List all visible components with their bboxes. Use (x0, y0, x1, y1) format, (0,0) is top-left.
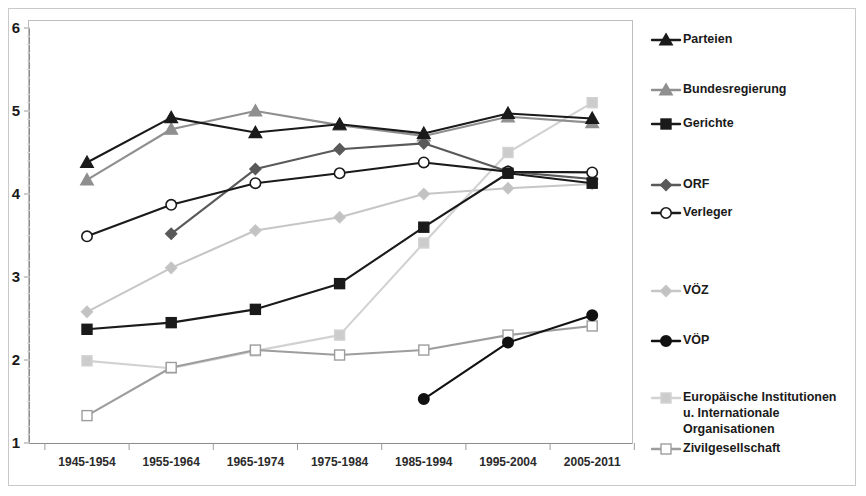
data-point-marker (81, 173, 94, 184)
line-chart-svg: 123456 1945-19541955-19641965-19741975-1… (0, 0, 866, 496)
data-point-marker (334, 144, 345, 155)
data-point-marker (419, 394, 429, 404)
y-axis-tick-label: 5 (12, 102, 20, 119)
data-point-marker (334, 212, 345, 223)
y-axis-tick-label: 1 (12, 434, 20, 451)
data-point-marker (166, 262, 177, 273)
legend-item-verleger[interactable]: Verleger (652, 205, 732, 219)
data-point-marker (82, 411, 92, 421)
data-point-marker (334, 168, 344, 178)
x-axis-tick-label: 2005-2011 (564, 455, 621, 469)
legend-item-gerichte[interactable]: Gerichte (652, 116, 734, 130)
data-point-marker (166, 318, 176, 328)
y-axis-tick-label: 4 (12, 185, 21, 202)
data-point-marker (503, 148, 513, 158)
legend-item-zivilgesellschaft[interactable]: Zivilgesellschaft (652, 441, 781, 455)
x-axis-tick-label: 1975-1984 (311, 455, 369, 469)
data-point-marker (418, 188, 429, 199)
data-point-marker (503, 168, 513, 178)
legend-item-v-p[interactable]: VÖP (652, 332, 709, 347)
data-point-marker (81, 156, 94, 167)
data-point-marker (419, 238, 429, 248)
data-point-marker (81, 306, 92, 317)
data-point-marker (587, 321, 597, 331)
legend-item-parteien[interactable]: Parteien (652, 32, 732, 46)
legend-label: Parteien (683, 32, 732, 46)
data-point-marker (335, 350, 345, 360)
data-point-marker (661, 119, 671, 129)
data-point-marker (660, 179, 671, 190)
data-point-marker (661, 393, 671, 403)
data-point-marker (335, 330, 345, 340)
legend-label: Europäische Institutionen (683, 390, 837, 404)
data-point-marker (250, 304, 260, 314)
series-v-z (81, 178, 597, 317)
legend-label: Verleger (683, 205, 732, 219)
legend-label: u. Internationale (683, 406, 780, 420)
legend-label: VÖP (683, 332, 709, 347)
data-point-marker (587, 178, 597, 188)
y-axis-tick-label: 2 (12, 351, 20, 368)
data-point-marker (419, 222, 429, 232)
legend-label: Bundesregierung (683, 82, 787, 96)
data-point-marker (419, 157, 429, 167)
data-point-marker (503, 337, 513, 347)
x-axis-tick-label: 1985-1994 (395, 455, 453, 469)
series-layer (81, 98, 599, 421)
data-point-marker (661, 444, 671, 454)
chart-legend: ParteienBundesregierungGerichteORFVerleg… (652, 32, 837, 455)
data-point-marker (502, 183, 513, 194)
data-point-marker (250, 345, 260, 355)
data-point-marker (335, 279, 345, 289)
legend-item-bundesregierung[interactable]: Bundesregierung (652, 82, 787, 96)
data-point-marker (82, 324, 92, 334)
x-axis-tick-label: 1955-1964 (143, 455, 201, 469)
y-axis: 123456 (12, 19, 30, 451)
legend-label: Zivilgesellschaft (683, 441, 781, 455)
data-point-marker (419, 345, 429, 355)
x-axis: 1945-19541955-19641965-19741975-19841985… (30, 443, 635, 469)
series-europ-ische-institutionen-u-internationale-organisationen (82, 98, 597, 374)
legend-label: ORF (683, 177, 710, 191)
legend-item-orf[interactable]: ORF (652, 177, 710, 191)
series-gerichte (82, 168, 597, 334)
x-axis-tick-label: 1945-1954 (58, 455, 116, 469)
chart-container: 123456 1945-19541955-19641965-19741975-1… (0, 0, 866, 496)
legend-label: Gerichte (683, 116, 734, 130)
x-axis-tick-label: 1965-1974 (227, 455, 285, 469)
data-point-marker (661, 336, 671, 346)
data-point-marker (249, 105, 262, 116)
series-v-p (419, 310, 598, 404)
series-verleger (82, 157, 598, 241)
legend-label: Organisationen (683, 422, 775, 436)
data-point-marker (166, 362, 176, 372)
legend-item-europ-ische-institutionen-u-internationale-organisationen[interactable]: Europäische Institutionenu. Internationa… (652, 390, 837, 436)
legend-label: VÖZ (683, 282, 709, 297)
data-point-marker (165, 111, 178, 122)
y-axis-tick-label: 6 (12, 19, 20, 36)
data-point-marker (82, 231, 92, 241)
data-point-marker (587, 167, 597, 177)
legend-item-v-z[interactable]: VÖZ (652, 282, 709, 297)
y-axis-tick-label: 3 (12, 268, 20, 285)
data-point-marker (587, 310, 597, 320)
data-point-marker (660, 285, 671, 296)
data-point-marker (82, 356, 92, 366)
data-point-marker (587, 98, 597, 108)
plot-area-border (29, 21, 633, 444)
data-point-marker (661, 208, 671, 218)
x-axis-tick-label: 1995-2004 (479, 455, 537, 469)
data-point-marker (250, 225, 261, 236)
data-point-marker (250, 178, 260, 188)
data-point-marker (166, 200, 176, 210)
